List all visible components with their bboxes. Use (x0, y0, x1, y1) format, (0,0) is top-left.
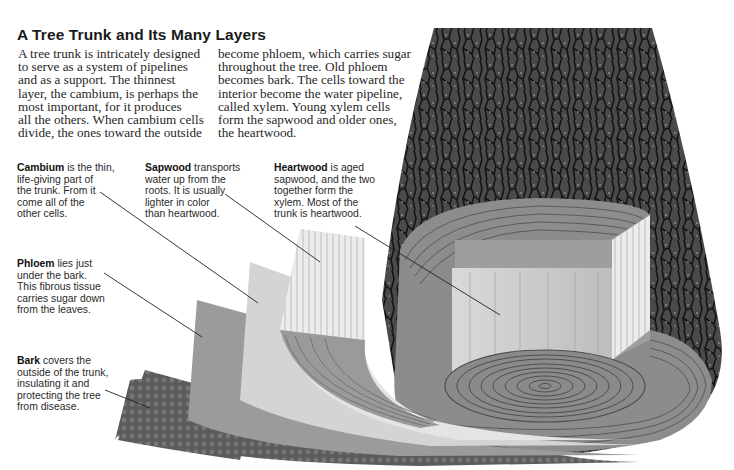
label-text: lighter in color (145, 197, 240, 209)
intro-line: and as a support. The thinnest (18, 73, 204, 86)
label-text: from disease. (17, 401, 108, 413)
heartwood-label: Heartwood is aged sapwood, and the two t… (274, 162, 375, 220)
intro-line: divide, the ones toward the outside (18, 126, 204, 139)
intro-line: interior become the water pipeline, (218, 87, 411, 100)
label-text: lies just (55, 258, 93, 269)
label-text: carries sugar down (17, 293, 105, 305)
intro-column-1: A tree trunk is intricately designed to … (18, 47, 204, 139)
label-text: outside of the trunk, (17, 367, 108, 379)
label-text: is the thin, (64, 162, 114, 173)
label-text: protecting the tree (17, 390, 108, 402)
label-text: sapwood, and the two (274, 174, 375, 186)
label-text: life-giving part of (17, 174, 115, 186)
label-text: other cells. (17, 208, 115, 220)
label-text: the trunk. From it (17, 185, 115, 197)
sapwood-grain-block (280, 229, 365, 340)
label-text: xylem. Most of the (274, 197, 375, 209)
sapwood-label: Sapwood transports water up from the roo… (145, 162, 240, 220)
label-term: Bark (17, 355, 40, 366)
label-text: under the bark. (17, 270, 105, 282)
label-text: insulating it and (17, 378, 108, 390)
intro-line: the heartwood. (218, 126, 411, 139)
label-text: is aged (328, 162, 364, 173)
phloem-label: Phloem lies just under the bark. This fi… (17, 258, 105, 316)
intro-line: becomes bark. The cells toward the (218, 73, 411, 86)
intro-column-2: become phloem, which carries sugar throu… (218, 47, 411, 139)
label-term: Phloem (17, 258, 55, 269)
label-text: covers the (40, 355, 91, 366)
label-text: roots. It is usually (145, 185, 240, 197)
label-term: Cambium (17, 162, 64, 173)
label-text: from the leaves. (17, 304, 105, 316)
page-title: A Tree Trunk and Its Many Layers (17, 26, 266, 44)
label-text: together form the (274, 185, 375, 197)
cambium-label: Cambium is the thin, life-giving part of… (17, 162, 115, 220)
label-text: water up from the (145, 174, 240, 186)
label-text: trunk is heartwood. (274, 208, 375, 220)
label-text: transports (191, 162, 240, 173)
label-term: Heartwood (274, 162, 328, 173)
bark-label: Bark covers the outside of the trunk, in… (17, 355, 108, 413)
growth-rings (445, 350, 645, 422)
label-term: Sapwood (145, 162, 191, 173)
label-text: than heartwood. (145, 208, 240, 220)
label-text: come all of the (17, 197, 115, 209)
label-text: This fibrous tissue (17, 281, 105, 293)
intro-line: layer, the cambium, is perhaps the (18, 87, 204, 100)
